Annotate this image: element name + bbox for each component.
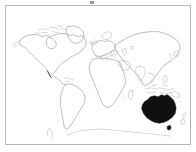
layer-asia	[115, 32, 180, 86]
layer-africa	[89, 58, 133, 107]
island-speck-1	[132, 90, 133, 91]
japan-coastline	[174, 50, 179, 57]
antarctic-peninsula-coastline	[48, 128, 53, 138]
india-coastline	[136, 66, 146, 81]
madagascar-coastline	[129, 90, 133, 100]
north-america-coastline	[19, 34, 86, 76]
island-speck-2	[124, 97, 125, 98]
asia-coastline	[115, 32, 180, 86]
layer-antarctica	[48, 128, 171, 138]
island-speck-3	[180, 101, 181, 102]
australia-filled-region[interactable]	[142, 95, 177, 124]
layer-north-america	[13, 26, 86, 85]
korea-coastline	[169, 53, 171, 58]
philippines-coastline	[163, 75, 167, 83]
new-zealand-coastline	[181, 112, 186, 124]
caribbean-islands	[64, 78, 73, 82]
canadian-arctic-islands	[36, 26, 66, 34]
baja-california-coast	[48, 71, 52, 78]
antarctica-coastline	[67, 129, 170, 136]
layer-new-zealand	[181, 112, 186, 124]
greenland-coastline	[66, 26, 84, 44]
new-guinea-coastline	[170, 92, 180, 98]
central-america-coastline	[53, 76, 65, 85]
hudson-bay-coastline	[47, 38, 57, 49]
indochina-coastline	[148, 73, 154, 84]
layer-australia-highlight[interactable]	[142, 95, 177, 130]
caspian-aral-sea	[123, 46, 134, 55]
map-figure-root	[0, 0, 196, 152]
layer-europe	[90, 32, 118, 61]
tasmania-filled-region	[167, 125, 171, 130]
layer-south-america	[60, 84, 85, 129]
europe-coastline	[92, 41, 116, 58]
indonesia-coastline	[145, 85, 174, 94]
layer-southeast-asia	[145, 73, 180, 98]
south-america-coastline	[60, 84, 85, 129]
map-frame-border	[5, 5, 191, 145]
world-map-svg[interactable]	[6, 6, 190, 144]
arabian-peninsula-coastline	[119, 60, 131, 70]
top-edge-tick-mark	[90, 1, 94, 4]
scandinavia-coastline	[102, 32, 112, 40]
